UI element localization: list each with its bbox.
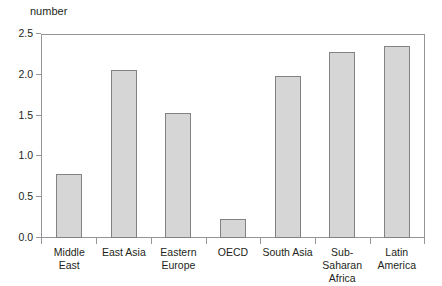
x-axis-label: Eastern Europe [151, 246, 206, 285]
bar-slot [369, 35, 424, 238]
x-axis-tick-mark [151, 238, 152, 244]
bar-slot [206, 35, 261, 238]
x-axis-tick-mark [424, 238, 425, 244]
bar-slot [42, 35, 97, 238]
bar-slot [151, 35, 206, 238]
x-axis-tick-marks [41, 238, 425, 244]
y-axis-tick-label: 2.5 [18, 27, 33, 40]
y-axis-tick-label: 0.0 [18, 231, 33, 244]
y-axis-tick-label: 1.0 [18, 149, 33, 162]
x-axis-label: Sub-Saharan Africa [315, 246, 370, 285]
x-axis-labels: Middle EastEast AsiaEastern EuropeOECDSo… [42, 246, 424, 285]
y-axis-tick-label: 2.0 [18, 68, 33, 81]
x-axis-tick-mark [96, 238, 97, 244]
x-axis-tick-mark [315, 238, 316, 244]
x-axis-tick-mark [206, 238, 207, 244]
y-axis-tick-label: 0.5 [18, 190, 33, 203]
x-axis-tick-mark [41, 238, 42, 244]
bar-chart: number 0.00.51.01.52.02.5 Middle EastEas… [0, 0, 442, 286]
bar[interactable] [275, 76, 301, 238]
x-axis-label: South Asia [260, 246, 315, 285]
y-axis: 0.00.51.01.52.02.5 [0, 34, 41, 238]
bars-container [42, 35, 424, 238]
bar[interactable] [220, 219, 246, 238]
bar[interactable] [56, 174, 82, 238]
y-axis-unit-label: number [30, 5, 67, 18]
x-axis-tick-mark [260, 238, 261, 244]
bar[interactable] [165, 113, 191, 238]
x-axis-label: East Asia [97, 246, 152, 285]
x-axis-label: Latin America [369, 246, 424, 285]
x-axis-tick-mark [370, 238, 371, 244]
bar-slot [260, 35, 315, 238]
bar[interactable] [111, 70, 137, 238]
x-axis-label: OECD [206, 246, 261, 285]
bar-slot [97, 35, 152, 238]
y-axis-tick-label: 1.5 [18, 109, 33, 122]
bar[interactable] [384, 46, 410, 238]
bar-slot [315, 35, 370, 238]
bar[interactable] [329, 52, 355, 238]
x-axis-label: Middle East [42, 246, 97, 285]
